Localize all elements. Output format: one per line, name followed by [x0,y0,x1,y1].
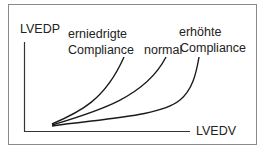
x-axis-label: LVEDV [196,124,236,139]
label-reduced-compliance-line1: erniedrigte [68,27,127,42]
y-axis-label: LVEDP [20,22,60,37]
label-reduced-compliance-line2: Compliance [68,43,134,58]
label-increased-compliance-line1: erhöhte [179,25,221,40]
curve-increased-compliance [52,57,199,126]
label-increased-compliance-line2: Compliance [180,41,246,56]
label-normal: normal [144,43,182,58]
curve-normal [52,57,166,125]
